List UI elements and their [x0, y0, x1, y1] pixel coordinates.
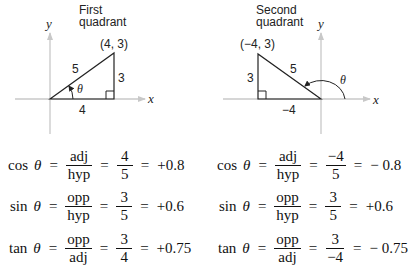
theta-symbol: θ — [34, 157, 41, 174]
ratio-denominator: hyp — [66, 166, 93, 182]
result-value: +0.6 — [157, 198, 184, 215]
second-point-label: (−4, 3) — [240, 37, 275, 51]
function-name: sin — [10, 198, 28, 215]
equals-sign: = — [258, 240, 266, 257]
theta-symbol: θ — [243, 198, 250, 215]
first-adjacent-label: 4 — [79, 103, 86, 117]
function-name: sin — [219, 198, 237, 215]
theta-symbol: θ — [34, 198, 41, 215]
theta-symbol: θ — [33, 240, 40, 257]
second-hypotenuse-label: 5 — [290, 62, 297, 76]
value-denominator: 4 — [118, 249, 130, 265]
value-fraction: 35 — [116, 190, 132, 223]
function-name: tan — [9, 240, 27, 257]
first-right-angle-mark — [106, 91, 114, 99]
ratio-numerator: adj — [66, 149, 92, 166]
second-cos-equation: cos θ = adjhyp = −45 = − 0.8 — [217, 148, 401, 182]
equals-sign: = — [100, 240, 108, 257]
value-denominator: 5 — [328, 207, 340, 223]
equals-sign: = — [100, 198, 108, 215]
second-sin-equation: sin θ = opphyp = 35 = +0.6 — [219, 189, 393, 223]
first-angle-arc — [69, 86, 73, 99]
value-denominator: 5 — [330, 166, 342, 182]
result-value: − 0.75 — [370, 240, 408, 257]
second-triangle — [258, 54, 321, 99]
ratio-fraction: adjhyp — [66, 149, 93, 182]
ratio-numerator: opp — [274, 190, 301, 207]
first-y-label: y — [44, 16, 52, 31]
ratio-fraction: oppadj — [65, 232, 92, 265]
second-x-label: x — [372, 92, 379, 107]
result-value: +0.75 — [157, 240, 192, 257]
value-fraction: −45 — [326, 149, 346, 182]
second-opposite-label: 3 — [247, 71, 254, 85]
first-sin-equation: sin θ = opphyp = 35 = +0.6 — [10, 189, 184, 223]
second-right-angle-mark — [258, 91, 266, 99]
result-value: +0.6 — [366, 198, 393, 215]
equals-sign: = — [349, 198, 357, 215]
theta-symbol: θ — [242, 240, 249, 257]
ratio-fraction: opphyp — [274, 190, 301, 223]
equals-sign: = — [49, 157, 57, 174]
result-value: +0.8 — [157, 157, 184, 174]
first-opposite-label: 3 — [118, 71, 125, 85]
function-name: tan — [218, 240, 236, 257]
ratio-denominator: hyp — [274, 207, 301, 223]
first-hypotenuse-label: 5 — [72, 62, 79, 76]
equals-sign: = — [141, 157, 149, 174]
ratio-fraction: adjhyp — [275, 149, 302, 182]
second-adjacent-label: −4 — [282, 103, 296, 117]
value-numerator: −4 — [326, 149, 346, 166]
ratio-numerator: opp — [65, 190, 92, 207]
theta-symbol: θ — [243, 157, 250, 174]
second-tan-equation: tan θ = oppadj = 3−4 = − 0.75 — [218, 231, 408, 265]
ratio-denominator: adj — [276, 249, 298, 265]
equals-sign: = — [353, 240, 361, 257]
equals-sign: = — [309, 157, 317, 174]
equals-sign: = — [258, 157, 266, 174]
second-title-line2: quadrant — [256, 15, 304, 29]
equals-sign: = — [140, 198, 148, 215]
ratio-fraction: oppadj — [274, 232, 301, 265]
equals-sign: = — [140, 240, 148, 257]
value-denominator: 5 — [119, 207, 131, 223]
function-name: cos — [8, 157, 28, 174]
function-name: cos — [217, 157, 237, 174]
equals-sign: = — [258, 198, 266, 215]
first-cos-equation: cos θ = adjhyp = 45 = +0.8 — [8, 148, 185, 182]
value-fraction: 34 — [116, 232, 132, 265]
value-numerator: 3 — [325, 190, 341, 207]
second-angle-label: θ — [340, 73, 346, 87]
first-x-label: x — [147, 91, 154, 106]
first-tan-equation: tan θ = oppadj = 34 = +0.75 — [9, 231, 191, 265]
result-value: − 0.8 — [370, 157, 401, 174]
second-y-label: y — [316, 16, 324, 31]
equals-sign: = — [309, 198, 317, 215]
value-fraction: 3−4 — [325, 232, 345, 265]
equals-sign: = — [309, 240, 317, 257]
quadrant-diagrams: First quadrant y x (4, 3) 5 3 4 θ Second… — [0, 0, 390, 140]
value-numerator: 3 — [326, 232, 344, 249]
ratio-numerator: opp — [274, 232, 301, 249]
equals-sign: = — [100, 157, 108, 174]
value-fraction: 45 — [117, 149, 133, 182]
equals-sign: = — [49, 240, 57, 257]
first-quadrant-diagram: First quadrant y x (4, 3) 5 3 4 θ — [15, 3, 154, 134]
ratio-denominator: adj — [67, 249, 89, 265]
first-title-line2: quadrant — [79, 15, 127, 29]
ratio-numerator: adj — [275, 149, 301, 166]
first-angle-label: θ — [77, 82, 83, 96]
ratio-fraction: opphyp — [65, 190, 92, 223]
second-quadrant-diagram: Second quadrant y x (−4, 3) 3 5 −4 θ — [223, 3, 379, 134]
value-denominator: −4 — [325, 249, 345, 265]
value-numerator: 4 — [117, 149, 133, 166]
equals-sign: = — [354, 157, 362, 174]
value-fraction: 35 — [325, 190, 341, 223]
value-denominator: 5 — [119, 166, 131, 182]
ratio-denominator: hyp — [275, 166, 302, 182]
value-numerator: 3 — [116, 190, 132, 207]
ratio-denominator: hyp — [65, 207, 92, 223]
ratio-numerator: opp — [65, 232, 92, 249]
first-point-label: (4, 3) — [100, 37, 128, 51]
equals-sign: = — [49, 198, 57, 215]
